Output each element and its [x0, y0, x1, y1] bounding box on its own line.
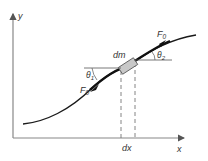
- y-axis-label: y: [17, 11, 23, 21]
- dx-label: dx: [122, 143, 132, 153]
- x-axis-label: x: [176, 144, 182, 154]
- string-curve: [23, 35, 196, 124]
- theta2-label: θ2: [157, 50, 166, 61]
- x-axis: x: [13, 138, 184, 154]
- theta2-arc: [152, 52, 155, 60]
- dm-label: dm: [113, 50, 126, 60]
- string-element-diagram: y x dx dm θ2 F0 θ1 F0: [0, 0, 208, 161]
- y-axis: y: [13, 11, 23, 138]
- lower-force-label: F0: [80, 85, 90, 96]
- upper-force-label: F0: [157, 29, 167, 40]
